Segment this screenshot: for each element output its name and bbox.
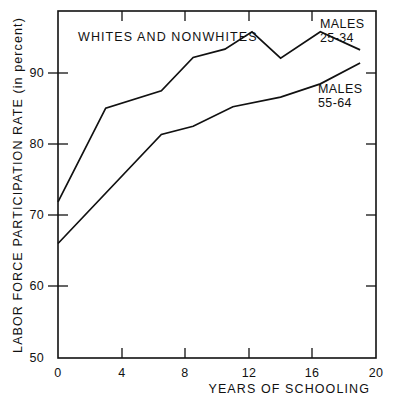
x-tick-label-12: 12 <box>242 366 257 380</box>
x-tick-label-8: 8 <box>181 366 188 380</box>
y-tick-label-80: 80 <box>29 137 44 151</box>
y-tick-label-70: 70 <box>29 208 44 222</box>
chart-figure: 90 80 70 60 50 0 4 8 12 16 20 YEARS OF S… <box>0 0 394 400</box>
x-tick-label-16: 16 <box>305 366 320 380</box>
plot-frame <box>58 11 376 358</box>
y-tick-label-50: 50 <box>29 351 44 365</box>
x-tick-label-0: 0 <box>54 366 61 380</box>
x-tick-label-20: 20 <box>369 366 384 380</box>
y-axis-title: LABOR FORCE PARTICIPATION RATE (in perce… <box>11 17 25 353</box>
y-tick-label-90: 90 <box>29 66 44 80</box>
series-label-males-25-34-line2: 25-34 <box>320 31 354 45</box>
x-axis-title: YEARS OF SCHOOLING <box>209 382 371 396</box>
plot-annotation: WHITES AND NONWHITES <box>78 30 258 44</box>
y-tick-label-60: 60 <box>29 279 44 293</box>
x-tick-label-4: 4 <box>118 366 125 380</box>
series-label-males-55-64-line2: 55-64 <box>318 96 352 110</box>
series-label-males-25-34-line1: MALES <box>320 17 364 31</box>
series-label-males-55-64-line1: MALES <box>318 82 362 96</box>
line-chart-svg: 90 80 70 60 50 0 4 8 12 16 20 YEARS OF S… <box>0 0 394 400</box>
